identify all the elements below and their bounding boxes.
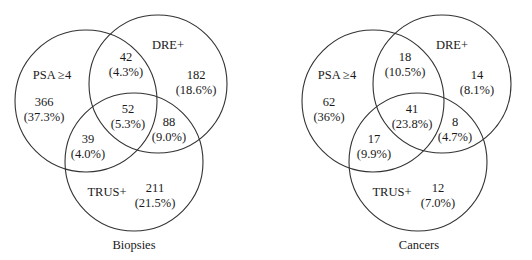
region-percent-psa-only: (36%) (313, 110, 344, 124)
region-percent-dre-only: (8.1%) (460, 83, 494, 97)
region-percent-psa-dre: (4.3%) (109, 65, 143, 79)
region-count-dre-trus: 8 (452, 115, 458, 129)
region-count-psa-dre-trus: 52 (122, 102, 135, 116)
set-label-psa: PSA ≥4 (33, 68, 72, 82)
venn-diagram-biopsies: PSA ≥4DRE+TRUS+366(37.3%)42(4.3%)182(18.… (15, 15, 227, 252)
region-count-dre-trus: 88 (163, 115, 176, 129)
region-percent-psa-only: (37.3%) (24, 110, 65, 124)
region-count-psa-only: 366 (35, 95, 54, 109)
region-percent-dre-trus: (9.0%) (152, 130, 186, 144)
set-label-trus: TRUS+ (87, 185, 126, 199)
set-label-psa: PSA ≥4 (318, 68, 357, 82)
region-percent-dre-trus: (4.7%) (438, 130, 472, 144)
region-percent-psa-dre-trus: (23.8%) (392, 117, 433, 131)
region-count-psa-only: 62 (323, 95, 336, 109)
region-percent-trus-only: (21.5%) (135, 196, 176, 210)
set-label-trus: TRUS+ (372, 185, 411, 199)
region-percent-trus-only: (7.0%) (421, 196, 455, 210)
venn-diagrams-canvas: PSA ≥4DRE+TRUS+366(37.3%)42(4.3%)182(18.… (0, 0, 532, 260)
region-count-psa-dre-trus: 41 (406, 102, 419, 116)
set-label-dre: DRE+ (152, 38, 184, 52)
diagram-caption-cancers: Cancers (399, 238, 439, 252)
region-percent-psa-dre: (10.5%) (385, 65, 426, 79)
region-percent-psa-dre-trus: (5.3%) (111, 117, 145, 131)
region-count-psa-trus: 39 (82, 132, 95, 146)
region-count-psa-dre: 18 (399, 50, 412, 64)
region-count-trus-only: 12 (432, 181, 445, 195)
region-count-dre-only: 182 (187, 68, 206, 82)
region-count-psa-dre: 42 (120, 50, 133, 64)
venn-diagram-cancers: PSA ≥4DRE+TRUS+62(36%)18(10.5%)14(8.1%)4… (302, 15, 511, 252)
diagram-caption-biopsies: Biopsies (112, 238, 155, 252)
region-count-dre-only: 14 (471, 68, 484, 82)
region-count-psa-trus: 17 (368, 132, 381, 146)
region-percent-psa-trus: (9.9%) (357, 147, 391, 161)
region-count-trus-only: 211 (146, 181, 164, 195)
set-label-dre: DRE+ (436, 38, 468, 52)
region-percent-dre-only: (18.6%) (176, 83, 217, 97)
venn-figure: PSA ≥4DRE+TRUS+366(37.3%)42(4.3%)182(18.… (0, 0, 532, 260)
region-percent-psa-trus: (4.0%) (71, 147, 105, 161)
